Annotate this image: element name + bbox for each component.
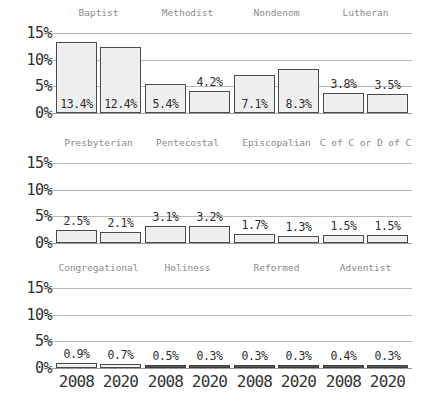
x-axis-tick-label: 2008 (143, 374, 188, 390)
bar (189, 91, 230, 113)
x-axis-tick-label: 2008 (232, 374, 277, 390)
gridline (52, 33, 145, 34)
chart-panel-baptist: Baptist13.4%12.4% (52, 8, 145, 130)
panel-title: Congregational (52, 263, 145, 273)
y-axis-tick-label: 0% (6, 106, 52, 121)
bar-value-label: 1.7% (234, 220, 275, 232)
panel-plot-area: 2.5%2.1% (52, 163, 145, 243)
bar-value-label: 1.5% (323, 221, 364, 233)
panel-plot-area: 1.5%1.5% (319, 163, 412, 243)
small-multiples-bar-chart: 0%5%10%15%Baptist13.4%12.4%Methodist5.4%… (0, 0, 425, 396)
bar (189, 226, 230, 243)
gridline (230, 190, 323, 191)
gridline (141, 33, 234, 34)
axis-baseline (141, 368, 234, 369)
chart-panel-adventist: Adventist0.4%0.3%20082020 (319, 263, 412, 396)
bar-value-label: 3.2% (189, 212, 230, 224)
chart-panel-c-of-c-or-d-of-c: C of C or D of C1.5%1.5% (319, 138, 412, 260)
bar-value-label: 12.4% (100, 99, 141, 111)
bar (189, 365, 230, 369)
bar (278, 236, 319, 243)
y-axis-tick-label: 0% (6, 236, 52, 251)
bar (278, 365, 319, 369)
chart-row-1: 0%5%10%15%Baptist13.4%12.4%Methodist5.4%… (0, 8, 425, 130)
bar-value-label: 8.3% (278, 99, 319, 111)
gridline (319, 190, 412, 191)
bar (100, 364, 141, 368)
bar-value-label: 0.5% (145, 351, 186, 363)
axis-baseline (52, 243, 145, 244)
gridline (141, 163, 234, 164)
panel-title: C of C or D of C (319, 138, 412, 148)
chart-panel-holiness: Holiness0.5%0.3%20082020 (141, 263, 234, 396)
gridline (319, 163, 412, 164)
chart-row-3: 0%5%10%15%Congregational0.9%0.7%20082020… (0, 263, 425, 396)
y-axis-tick-label: 10% (6, 183, 52, 198)
chart-panel-presbyterian: Presbyterian2.5%2.1% (52, 138, 145, 260)
y-axis-tick-label: 10% (6, 308, 52, 323)
y-axis-tick-label: 15% (6, 26, 52, 41)
panel-title: Pentecostal (141, 138, 234, 148)
panel-title: Methodist (141, 8, 234, 18)
axis-baseline (141, 243, 234, 244)
x-axis-tick-label: 2008 (54, 374, 99, 390)
chart-panel-lutheran: Lutheran3.8%3.5% (319, 8, 412, 130)
chart-panel-congregational: Congregational0.9%0.7%20082020 (52, 263, 145, 396)
panel-title: Adventist (319, 263, 412, 273)
panel-plot-area: 13.4%12.4% (52, 33, 145, 113)
panel-title: Presbyterian (52, 138, 145, 148)
axis-baseline (319, 113, 412, 114)
bar (100, 232, 141, 243)
panel-plot-area: 5.4%4.2% (141, 33, 234, 113)
bar-value-label: 0.3% (234, 351, 275, 363)
gridline (52, 190, 145, 191)
chart-row-2: 0%5%10%15%Presbyterian2.5%2.1%Pentecosta… (0, 138, 425, 260)
chart-panel-episcopalian: Episcopalian1.7%1.3% (230, 138, 323, 260)
bar-value-label: 0.4% (323, 351, 364, 363)
bar-value-label: 0.9% (56, 349, 97, 361)
panel-title: Holiness (141, 263, 234, 273)
x-axis-tick-label: 2020 (98, 374, 143, 390)
bar (323, 235, 364, 243)
gridline (141, 315, 234, 316)
gridline (230, 315, 323, 316)
panel-plot-area: 3.8%3.5% (319, 33, 412, 113)
bar-value-label: 4.2% (189, 77, 230, 89)
gridline (319, 33, 412, 34)
bar-value-label: 1.3% (278, 222, 319, 234)
bar (367, 235, 408, 243)
gridline (230, 288, 323, 289)
bar (323, 365, 364, 369)
y-axis-tick-label: 5% (6, 209, 52, 224)
panel-plot-area: 0.4%0.3% (319, 288, 412, 368)
bar (56, 363, 97, 368)
bar-value-label: 3.5% (367, 80, 408, 92)
axis-baseline (230, 243, 323, 244)
gridline (141, 60, 234, 61)
y-axis-tick-label: 10% (6, 53, 52, 68)
panel-plot-area: 0.3%0.3% (230, 288, 323, 368)
y-axis-tick-label: 5% (6, 79, 52, 94)
gridline (52, 315, 145, 316)
x-axis-tick-label: 2020 (365, 374, 410, 390)
y-axis-tick-label: 0% (6, 361, 52, 376)
axis-baseline (230, 368, 323, 369)
gridline (319, 216, 412, 217)
bar-value-label: 0.3% (189, 351, 230, 363)
axis-baseline (319, 368, 412, 369)
panel-plot-area: 7.1%8.3% (230, 33, 323, 113)
bar (56, 230, 97, 243)
bar (234, 234, 275, 243)
bar-value-label: 0.7% (100, 350, 141, 362)
axis-baseline (52, 113, 145, 114)
gridline (319, 288, 412, 289)
gridline (141, 288, 234, 289)
y-axis: 0%5%10%15% (0, 263, 52, 396)
x-axis-tick-label: 2008 (321, 374, 366, 390)
gridline (52, 288, 145, 289)
bar-value-label: 0.3% (278, 351, 319, 363)
bar-value-label: 2.5% (56, 216, 97, 228)
y-axis: 0%5%10%15% (0, 8, 52, 130)
chart-panel-reformed: Reformed0.3%0.3%20082020 (230, 263, 323, 396)
axis-baseline (230, 113, 323, 114)
